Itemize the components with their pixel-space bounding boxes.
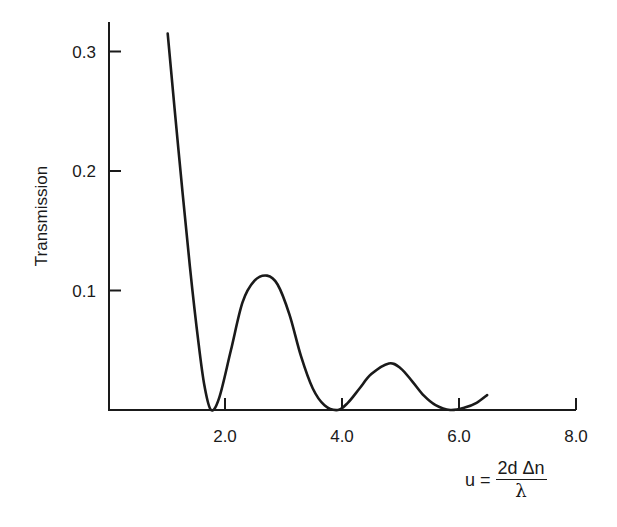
transmission-curve: [168, 34, 487, 411]
x-label-numerator: 2d Δn: [496, 458, 547, 480]
y-ticks: 0.10.20.3: [72, 43, 121, 301]
y-tick-label: 0.3: [72, 43, 96, 62]
y-tick-label: 0.2: [72, 162, 96, 181]
x-label-denominator: λ: [515, 480, 526, 502]
x-label-prefix: u =: [465, 470, 491, 491]
x-axis-label: u = 2d Δn λ: [465, 458, 547, 502]
x-tick-label: 6.0: [447, 427, 471, 446]
y-tick-label: 0.1: [72, 282, 96, 301]
x-tick-label: 2.0: [213, 427, 237, 446]
x-label-fraction: 2d Δn λ: [496, 458, 547, 502]
x-ticks: 2.04.06.08.0: [213, 398, 588, 446]
chart: 0.10.20.3 2.04.06.08.0 Transmission: [0, 0, 617, 527]
y-axis-label: Transmission: [32, 166, 51, 266]
x-tick-label: 8.0: [564, 427, 588, 446]
x-tick-label: 4.0: [330, 427, 354, 446]
